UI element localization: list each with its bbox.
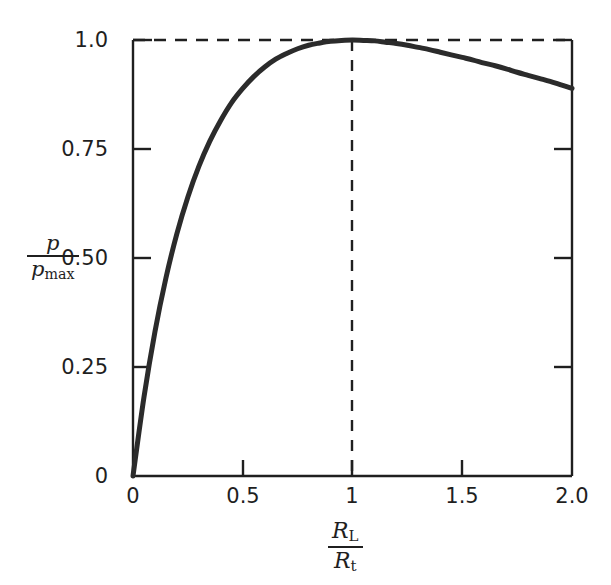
x-axis-label-denominator-subscript: t [351, 557, 357, 575]
x-axis-label-numerator: RL [328, 519, 363, 546]
chart-plot-area [0, 0, 611, 585]
chart-figure: 1.0 0.75 0.50 0.25 0 0 0.5 1 1.5 2.0 p p… [0, 0, 611, 585]
y-tick-label-0.25: 0.25 [36, 355, 108, 379]
x-axis-label-numerator-subscript: L [349, 527, 359, 545]
y-tick-label-0: 0 [78, 464, 108, 488]
guide-lines [133, 40, 572, 476]
y-tick-label-1.0: 1.0 [46, 28, 108, 52]
y-axis-label-denominator: pmax [27, 257, 79, 282]
x-tick-label-0.5: 0.5 [213, 484, 273, 508]
y-axis-label-numerator: p [27, 232, 79, 255]
y-axis-label: p pmax [27, 232, 79, 282]
x-axis-label-denominator: Rt [328, 548, 363, 575]
y-axis-label-denominator-subscript: max [44, 266, 74, 282]
y-axis-label-numerator-symbol: p [46, 231, 59, 255]
x-tick-label-0: 0 [118, 484, 148, 508]
x-axis-label-denominator-symbol: R [334, 548, 351, 573]
y-tick-label-0.75: 0.75 [36, 137, 108, 161]
x-axis-label-numerator-symbol: R [332, 518, 349, 543]
x-axis-label: RL Rt [328, 519, 363, 575]
x-tick-label-1.5: 1.5 [432, 484, 492, 508]
y-axis-label-denominator-symbol: p [31, 257, 44, 281]
x-tick-label-2.0: 2.0 [542, 484, 602, 508]
x-tick-label-1: 1 [337, 484, 367, 508]
